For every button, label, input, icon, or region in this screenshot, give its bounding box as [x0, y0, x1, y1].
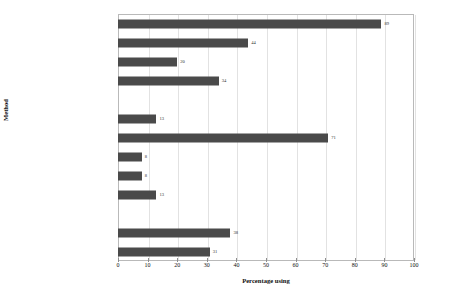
bar [118, 57, 177, 66]
bar-row: Jobcentre – display71 [118, 128, 414, 147]
bar-value-label: 13 [159, 116, 164, 121]
x-tick-label: 80 [352, 262, 358, 268]
bar [118, 114, 156, 123]
bar [118, 76, 219, 85]
bar-value-label: 20 [180, 59, 185, 64]
x-tick-label: 30 [204, 262, 210, 268]
bar-value-label: 13 [159, 192, 164, 197]
x-tick-label: 0 [117, 262, 120, 268]
bar-row: Recruitment agency13 [118, 109, 414, 128]
x-tick-label: 10 [145, 262, 151, 268]
x-tick-label: 70 [322, 262, 328, 268]
x-tick-label: 60 [293, 262, 299, 268]
bar [118, 247, 210, 256]
bar-value-label: 8 [145, 154, 147, 159]
bar-row: Friend or relative38 [118, 223, 414, 242]
bar-row: Advert in national press44 [118, 33, 414, 52]
bar [118, 133, 328, 142]
bar-value-label: 31 [213, 249, 218, 254]
bar-chart: Advert in local press89Advert in nationa… [0, 0, 459, 302]
bar-value-label: 44 [251, 40, 256, 45]
gridline [415, 15, 416, 260]
bar-row [118, 90, 414, 109]
x-tick-label: 50 [263, 262, 269, 268]
x-tick-label: 100 [410, 262, 419, 268]
bar-value-label: 38 [233, 230, 238, 235]
bar-row: Advert in journal20 [118, 52, 414, 71]
x-axis-ticks: 0102030405060708090100 [118, 262, 414, 276]
x-axis-title: Percentage using [118, 277, 414, 284]
bar-value-label: 71 [331, 135, 336, 140]
bar-row: Advert in local press89 [118, 14, 414, 33]
bar [118, 19, 381, 28]
x-tick-label: 20 [174, 262, 180, 268]
bar [118, 171, 142, 180]
x-tick-label: 90 [381, 262, 387, 268]
bar-value-label: 89 [384, 21, 389, 26]
x-tick-label: 40 [233, 262, 239, 268]
y-axis-title: Method [2, 99, 9, 121]
bar-row: Job Club8 [118, 166, 414, 185]
bar-rows: Advert in local press89Advert in nationa… [118, 14, 414, 261]
bar-row: Find self-employed work13 [118, 185, 414, 204]
bar [118, 190, 156, 199]
bar-row: Advert in shop/noticeboard34 [118, 71, 414, 90]
bar-value-label: 34 [222, 78, 227, 83]
bar-value-label: 8 [145, 173, 147, 178]
bar [118, 38, 248, 47]
bar [118, 228, 230, 237]
bar-row [118, 204, 414, 223]
bar-row: Jobcentre – staff8 [118, 147, 414, 166]
bar [118, 152, 142, 161]
